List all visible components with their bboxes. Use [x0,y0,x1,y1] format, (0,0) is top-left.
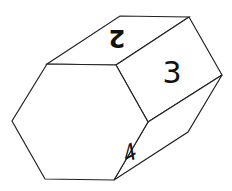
face-label-2: 2 [109,24,126,52]
hexagonal-die-diagram: 2 3 4 [0,0,232,191]
face-label-3: 3 [162,55,181,90]
